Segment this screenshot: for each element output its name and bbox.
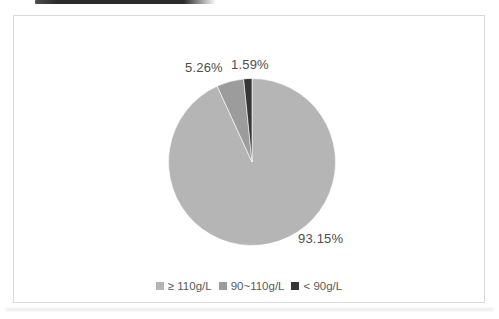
- data-label-lt-90: 1.59%: [231, 57, 269, 72]
- legend-item-lt-90: < 90g/L: [291, 280, 342, 292]
- legend: ≥ 110g/L 90~110g/L < 90g/L: [14, 278, 484, 294]
- scan-artifact: [6, 308, 493, 311]
- data-label-ge-110: 93.15%: [298, 231, 343, 246]
- data-label-90-110: 5.26%: [185, 60, 223, 75]
- cropped-content-artifact: [35, 0, 216, 4]
- chart-frame: 93.15% 5.26% 1.59% ≥ 110g/L 90~110g/L < …: [13, 15, 485, 303]
- legend-item-ge-110: ≥ 110g/L: [156, 280, 212, 292]
- legend-label-lt-90: < 90g/L: [303, 280, 342, 292]
- screenshot-root: 93.15% 5.26% 1.59% ≥ 110g/L 90~110g/L < …: [0, 0, 499, 319]
- legend-label-ge-110: ≥ 110g/L: [168, 280, 212, 292]
- legend-label-90-110: 90~110g/L: [231, 280, 285, 292]
- legend-swatch-lt-90-icon: [291, 282, 299, 290]
- legend-swatch-ge-110-icon: [156, 282, 164, 290]
- legend-item-90-110: 90~110g/L: [219, 280, 285, 292]
- pie-chart: [167, 77, 337, 247]
- legend-swatch-90-110-icon: [219, 282, 227, 290]
